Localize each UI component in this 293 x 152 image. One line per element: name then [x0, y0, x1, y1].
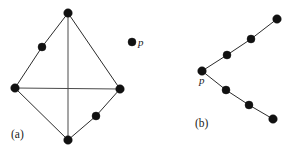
graph-node-b-dn-1	[222, 86, 230, 94]
figure-diagram	[0, 0, 293, 152]
outline-edges-group	[15, 13, 277, 140]
graph-node-b-dn-2	[245, 101, 253, 109]
graph-node-b-up-2	[247, 35, 255, 43]
graph-edge-a-upper-left-to-a-left	[15, 47, 42, 88]
graph-edge-a-top-to-a-right	[68, 13, 120, 89]
graph-edge-a-left-to-a-right	[15, 88, 120, 89]
figure-container: p p (a) (b)	[0, 0, 293, 152]
point-label-p-panel-a: p	[138, 37, 144, 48]
graph-edge-a-right-to-a-lower-right	[96, 89, 120, 116]
graph-node-a-upper-left	[38, 43, 46, 51]
graph-node-b-up-1	[223, 51, 231, 59]
diagonal-edges-group	[15, 13, 120, 140]
graph-edge-b-up-2-to-b-up-3	[251, 19, 277, 39]
graph-edge-b-up-1-to-b-up-2	[227, 39, 251, 55]
graph-node-b-dn-3	[269, 115, 278, 124]
graph-node-a-bottom	[64, 136, 73, 145]
graph-node-b-up-3	[273, 15, 282, 24]
point-label-p-panel-b: p	[199, 75, 205, 86]
graph-node-a-lower-right	[92, 112, 100, 120]
graph-node-a-right	[116, 85, 125, 94]
graph-edge-b-p-to-b-dn-1	[202, 71, 226, 90]
panel-caption-b: (b)	[195, 118, 208, 130]
graph-node-a-top	[64, 9, 73, 18]
graph-node-a-isolated-p	[128, 38, 136, 46]
graph-node-a-left	[11, 84, 20, 93]
graph-edge-a-lower-right-to-a-bottom	[68, 116, 96, 140]
panel-caption-a: (a)	[11, 129, 24, 141]
graph-edge-a-top-to-a-upper-left	[42, 13, 68, 47]
